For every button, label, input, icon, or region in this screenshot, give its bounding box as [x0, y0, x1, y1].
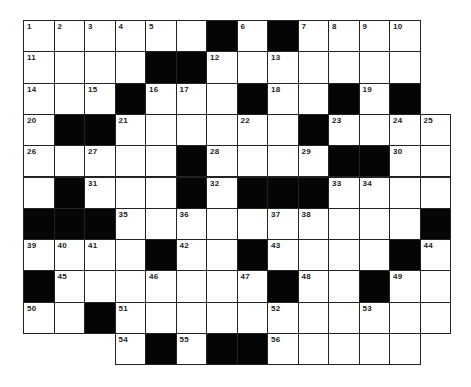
grid-cell[interactable]: 33	[328, 177, 360, 209]
grid-cell[interactable]: 12	[206, 51, 238, 83]
grid-cell[interactable]	[237, 145, 269, 177]
grid-cell[interactable]: 5	[145, 20, 177, 52]
grid-cell[interactable]	[389, 51, 421, 83]
grid-cell[interactable]: 2	[54, 20, 86, 52]
grid-cell[interactable]	[115, 51, 147, 83]
grid-cell[interactable]: 48	[298, 270, 330, 302]
grid-cell[interactable]: 35	[115, 208, 147, 240]
grid-cell[interactable]	[298, 51, 330, 83]
grid-cell[interactable]: 25	[420, 114, 452, 146]
grid-cell[interactable]: 38	[298, 208, 330, 240]
grid-cell[interactable]: 36	[176, 208, 208, 240]
grid-cell[interactable]: 43	[267, 239, 299, 271]
grid-cell[interactable]	[115, 270, 147, 302]
grid-cell[interactable]: 22	[237, 114, 269, 146]
grid-cell[interactable]	[237, 208, 269, 240]
grid-cell[interactable]	[176, 302, 208, 334]
grid-cell[interactable]	[206, 270, 238, 302]
grid-cell[interactable]	[359, 239, 391, 271]
grid-cell[interactable]: 44	[420, 239, 452, 271]
grid-cell[interactable]: 13	[267, 51, 299, 83]
grid-cell[interactable]: 50	[23, 302, 55, 334]
grid-cell[interactable]: 16	[145, 83, 177, 115]
grid-cell[interactable]	[145, 302, 177, 334]
grid-cell[interactable]	[237, 51, 269, 83]
grid-cell[interactable]: 1	[23, 20, 55, 52]
grid-cell[interactable]: 41	[84, 239, 116, 271]
grid-cell[interactable]	[420, 145, 452, 177]
grid-cell[interactable]: 55	[176, 333, 208, 365]
grid-cell[interactable]: 15	[84, 83, 116, 115]
grid-cell[interactable]	[328, 270, 360, 302]
grid-cell[interactable]	[267, 145, 299, 177]
grid-cell[interactable]	[359, 51, 391, 83]
grid-cell[interactable]: 23	[328, 114, 360, 146]
grid-cell[interactable]: 31	[84, 177, 116, 209]
grid-cell[interactable]: 39	[23, 239, 55, 271]
grid-cell[interactable]: 4	[115, 20, 147, 52]
grid-cell[interactable]	[328, 208, 360, 240]
grid-cell[interactable]	[328, 239, 360, 271]
grid-cell[interactable]: 18	[267, 83, 299, 115]
grid-cell[interactable]: 37	[267, 208, 299, 240]
grid-cell[interactable]	[298, 239, 330, 271]
grid-cell[interactable]: 32	[206, 177, 238, 209]
grid-cell[interactable]	[206, 83, 238, 115]
grid-cell[interactable]: 30	[389, 145, 421, 177]
grid-cell[interactable]: 6	[237, 20, 269, 52]
grid-cell[interactable]: 49	[389, 270, 421, 302]
grid-cell[interactable]: 28	[206, 145, 238, 177]
grid-cell[interactable]	[206, 302, 238, 334]
grid-cell[interactable]: 3	[84, 20, 116, 52]
grid-cell[interactable]	[389, 302, 421, 334]
grid-cell[interactable]	[54, 51, 86, 83]
grid-cell[interactable]	[298, 302, 330, 334]
grid-cell[interactable]	[145, 177, 177, 209]
grid-cell[interactable]	[328, 302, 360, 334]
grid-cell[interactable]: 11	[23, 51, 55, 83]
grid-cell[interactable]	[176, 114, 208, 146]
grid-cell[interactable]	[54, 83, 86, 115]
grid-cell[interactable]	[389, 208, 421, 240]
grid-cell[interactable]: 56	[267, 333, 299, 365]
grid-cell[interactable]: 40	[54, 239, 86, 271]
grid-cell[interactable]: 19	[359, 83, 391, 115]
grid-cell[interactable]: 34	[359, 177, 391, 209]
grid-cell[interactable]	[298, 333, 330, 365]
grid-cell[interactable]	[328, 51, 360, 83]
grid-cell[interactable]	[328, 333, 360, 365]
grid-cell[interactable]: 26	[23, 145, 55, 177]
grid-cell[interactable]	[420, 177, 452, 209]
grid-cell[interactable]	[206, 114, 238, 146]
grid-cell[interactable]: 27	[84, 145, 116, 177]
grid-cell[interactable]	[420, 270, 452, 302]
grid-cell[interactable]	[359, 114, 391, 146]
grid-cell[interactable]	[84, 51, 116, 83]
grid-cell[interactable]: 52	[267, 302, 299, 334]
grid-cell[interactable]	[176, 270, 208, 302]
grid-cell[interactable]	[145, 208, 177, 240]
grid-cell[interactable]	[359, 208, 391, 240]
grid-cell[interactable]: 53	[359, 302, 391, 334]
grid-cell[interactable]	[237, 302, 269, 334]
grid-cell[interactable]	[298, 83, 330, 115]
grid-cell[interactable]	[359, 333, 391, 365]
grid-cell[interactable]: 7	[298, 20, 330, 52]
grid-cell[interactable]	[206, 239, 238, 271]
grid-cell[interactable]: 14	[23, 83, 55, 115]
grid-cell[interactable]	[206, 208, 238, 240]
grid-cell[interactable]: 51	[115, 302, 147, 334]
grid-cell[interactable]	[389, 177, 421, 209]
grid-cell[interactable]	[267, 114, 299, 146]
grid-cell[interactable]	[115, 145, 147, 177]
grid-cell[interactable]: 10	[389, 20, 421, 52]
grid-cell[interactable]	[145, 145, 177, 177]
grid-cell[interactable]	[389, 333, 421, 365]
grid-cell[interactable]	[23, 177, 55, 209]
grid-cell[interactable]: 20	[23, 114, 55, 146]
grid-cell[interactable]: 45	[54, 270, 86, 302]
grid-cell[interactable]: 46	[145, 270, 177, 302]
grid-cell[interactable]	[176, 20, 208, 52]
grid-cell[interactable]: 54	[115, 333, 147, 365]
grid-cell[interactable]: 21	[115, 114, 147, 146]
